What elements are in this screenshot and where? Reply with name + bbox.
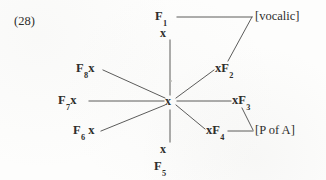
spoke-upper-right xyxy=(176,70,214,98)
central-node-x: x xyxy=(165,95,171,107)
subscript-5: 5 xyxy=(162,169,166,178)
node-xf2: xF2 xyxy=(215,62,233,75)
node-f8x: F8x xyxy=(76,62,95,75)
subscript-7: 7 xyxy=(66,103,70,112)
node-f5: F5 xyxy=(154,160,166,173)
spoke-upper-left xyxy=(103,70,165,98)
node-f7x: F7x xyxy=(58,94,77,107)
subscript-2: 2 xyxy=(229,71,233,80)
node-f1: F1 xyxy=(155,10,167,23)
node-xf3: xF3 xyxy=(232,94,250,107)
subscript-6: 6 xyxy=(81,133,85,142)
label-vocalic: [vocalic] xyxy=(255,10,299,23)
node-xf4: xF4 xyxy=(206,124,224,137)
spoke-lower-right xyxy=(176,105,205,129)
subscript-4: 4 xyxy=(220,133,224,142)
subscript-8: 8 xyxy=(84,71,88,80)
node-f6x: F6 x xyxy=(73,124,95,137)
vocalic-bracket-diagonal xyxy=(228,17,252,61)
example-number: (28) xyxy=(14,15,35,28)
figure-canvas: (28) F1 x x F5 xF2 xF3 xF4 F8x F7x F6 x … xyxy=(0,0,326,180)
spoke-lower-left xyxy=(101,105,165,131)
scan-speck xyxy=(170,80,172,82)
label-place-of-articulation: [P of A] xyxy=(255,124,295,137)
node-x-bottom: x xyxy=(160,143,166,155)
node-x-top: x xyxy=(160,27,166,39)
subscript-3: 3 xyxy=(246,103,250,112)
